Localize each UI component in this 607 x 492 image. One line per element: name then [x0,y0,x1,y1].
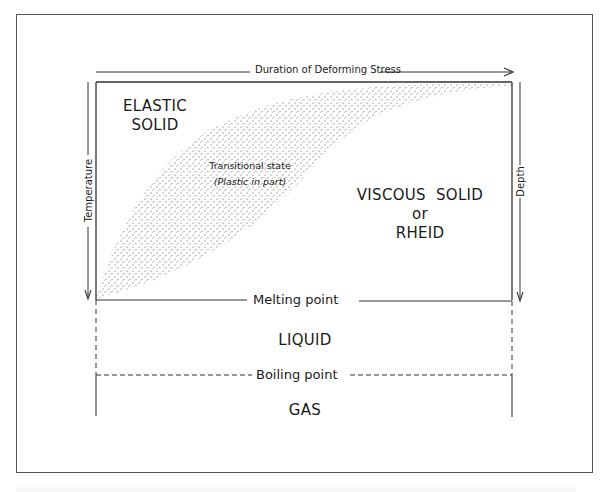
melting-point-label: Melting point [253,292,338,307]
transitional-line1: Transitional state [190,158,310,174]
elastic-solid-line2: SOLID [116,116,194,135]
elastic-solid-line1: ELASTIC [116,97,194,116]
viscous-line3: RHEID [340,224,500,243]
gas-label: GAS [280,401,330,420]
viscous-line2: or [340,205,500,224]
elastic-solid-label: ELASTIC SOLID [116,97,194,135]
viscous-line1: VISCOUS SOLID [340,186,500,205]
temperature-axis-label: Temperature [83,155,94,227]
liquid-label: LIQUID [270,331,340,350]
boiling-point-label: Boiling point [256,367,338,382]
depth-axis-label: Depth [515,162,526,202]
transitional-line2: (Plastic in part) [190,174,310,190]
duration-axis-label: Duration of Deforming Stress [255,64,401,75]
transitional-state-label: Transitional state (Plastic in part) [190,158,310,190]
cropped-caption [16,484,576,492]
viscous-solid-label: VISCOUS SOLID or RHEID [340,186,500,243]
